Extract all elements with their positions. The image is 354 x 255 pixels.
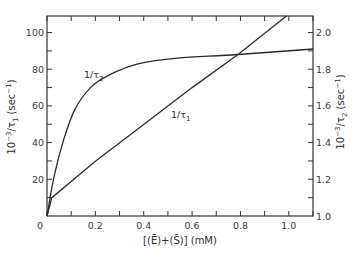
y-left-tick-label: 20 (32, 174, 44, 185)
y-left-tick-label: 60 (32, 100, 44, 111)
series-tau1-line (47, 16, 286, 216)
chart: 00.20.40.60.81.0204060801001.01.21.41.61… (0, 0, 354, 255)
y-right-tick-label: 1.0 (316, 211, 331, 222)
x-axis-label: [(Ē)+(S̄)] (mM) (143, 234, 217, 246)
y-right-tick-label: 1.6 (316, 100, 331, 111)
x-tick-label: 0.2 (88, 220, 103, 231)
y-right-tick-label: 1.2 (316, 174, 331, 185)
y-left-tick-label: 80 (32, 64, 44, 75)
x-tick-label: 0.6 (185, 220, 200, 231)
y-right-tick-label: 1.8 (316, 64, 331, 75)
y-right-tick-label: 2.0 (316, 27, 331, 38)
x-tick-label: 0.4 (136, 220, 151, 231)
x-tick-label: 0 (37, 220, 43, 231)
y-left-axis-label: 10−3/τ1 (sec−1) (5, 79, 20, 154)
x-tick-label: 0.8 (233, 220, 248, 231)
y-left-tick-label: 40 (32, 137, 44, 148)
y-right-tick-label: 1.4 (316, 137, 331, 148)
label-tau2: 1/τ2 (84, 69, 103, 83)
y-left-tick-label: 100 (26, 27, 44, 38)
y-right-axis-label: 10−3/τ2 (sec−1) (334, 74, 349, 149)
label-tau1: 1/τ1 (171, 109, 190, 123)
x-tick-label: 1.0 (281, 220, 296, 231)
